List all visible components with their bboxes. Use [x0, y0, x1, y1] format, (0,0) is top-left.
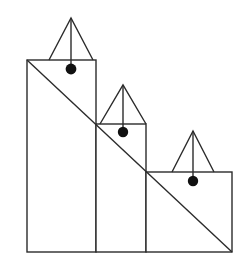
marker-dot-middle [118, 127, 128, 137]
marker-dot-left [66, 64, 77, 75]
diagram-svg [0, 0, 250, 277]
bar-rect-middle [96, 124, 146, 252]
bar-rect-left [27, 60, 96, 252]
figure-canvas [0, 0, 250, 277]
marker-dot-right [188, 176, 198, 186]
